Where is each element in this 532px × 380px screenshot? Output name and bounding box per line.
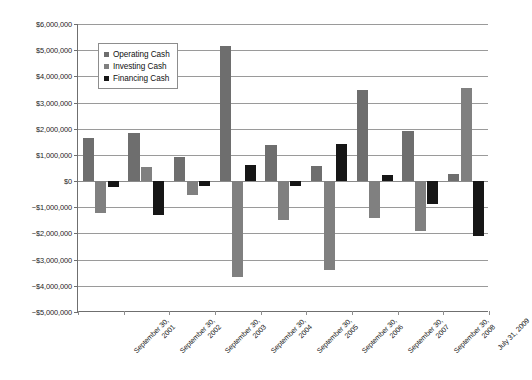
- bar-financing[interactable]: [427, 181, 438, 204]
- bar-investing[interactable]: [278, 181, 289, 220]
- x-tickmark: [124, 311, 125, 315]
- x-tickmark: [398, 311, 399, 315]
- chart-legend: Operating Cash Investing Cash Financing …: [98, 43, 178, 89]
- x-tickmark: [261, 311, 262, 315]
- bar-financing[interactable]: [108, 181, 119, 187]
- bar-investing[interactable]: [95, 181, 106, 213]
- y-axis-tick-label: $1,000,000: [0, 150, 72, 159]
- legend-item-investing: Investing Cash: [104, 60, 170, 72]
- bar-operating[interactable]: [448, 174, 459, 181]
- bar-investing[interactable]: [141, 167, 152, 181]
- x-axis-category-label: September 30,2005: [315, 317, 360, 362]
- bar-investing[interactable]: [415, 181, 426, 231]
- y-axis-tick-label: −$2,000,000: [0, 229, 72, 238]
- bar-operating[interactable]: [402, 131, 413, 181]
- y-axis-tick-label: $3,000,000: [0, 98, 72, 107]
- x-axis-category-label: September 30,2003: [224, 317, 269, 362]
- bar-investing[interactable]: [187, 181, 198, 195]
- x-tickmark: [352, 311, 353, 315]
- x-tickmark: [306, 311, 307, 315]
- legend-item-operating: Operating Cash: [104, 48, 170, 60]
- bar-operating[interactable]: [220, 46, 231, 181]
- legend-swatch-financing-icon: [104, 76, 109, 81]
- bar-group: [261, 24, 307, 311]
- bar-financing[interactable]: [245, 165, 256, 181]
- x-tickmark: [489, 311, 490, 315]
- bar-investing[interactable]: [232, 181, 243, 277]
- x-axis-category-label: September 30,2008: [452, 317, 497, 362]
- legend-label-financing: Financing Cash: [113, 74, 169, 83]
- y-axis-tick-label: $5,000,000: [0, 46, 72, 55]
- bar-group: [443, 24, 489, 311]
- x-axis-category-label: July 31, 2009: [496, 317, 531, 352]
- bar-operating[interactable]: [128, 133, 139, 181]
- bar-group: [215, 24, 261, 311]
- x-tickmark: [215, 311, 216, 315]
- bar-financing[interactable]: [473, 181, 484, 236]
- bar-financing[interactable]: [382, 175, 393, 181]
- bar-financing[interactable]: [153, 181, 164, 215]
- bar-operating[interactable]: [357, 90, 368, 181]
- bar-group: [398, 24, 444, 311]
- legend-swatch-operating-icon: [104, 52, 109, 57]
- y-axis-tick-label: −$4,000,000: [0, 281, 72, 290]
- y-axis-tick-label: $6,000,000: [0, 20, 72, 29]
- bar-operating[interactable]: [311, 166, 322, 181]
- y-axis-tick-label: −$1,000,000: [0, 203, 72, 212]
- x-axis-category-label: September 30,2004: [269, 317, 314, 362]
- x-axis-category-label: September 30,2006: [361, 317, 406, 362]
- legend-swatch-investing-icon: [104, 64, 109, 69]
- x-tickmark: [169, 311, 170, 315]
- x-axis-category-label: September 30,2002: [178, 317, 223, 362]
- y-axis-tick-label: −$3,000,000: [0, 255, 72, 264]
- bar-financing[interactable]: [199, 181, 210, 186]
- y-axis-tick-label: −$5,000,000: [0, 308, 72, 317]
- bar-operating[interactable]: [83, 138, 94, 181]
- bar-investing[interactable]: [369, 181, 380, 218]
- bar-financing[interactable]: [336, 144, 347, 181]
- x-axis-category-label: September 30,2007: [406, 317, 451, 362]
- bar-investing[interactable]: [461, 88, 472, 181]
- legend-item-financing: Financing Cash: [104, 72, 170, 84]
- legend-label-investing: Investing Cash: [113, 62, 166, 71]
- bar-group: [352, 24, 398, 311]
- bar-financing[interactable]: [290, 181, 301, 186]
- y-axis-tick-label: $2,000,000: [0, 124, 72, 133]
- bar-investing[interactable]: [324, 181, 335, 270]
- bar-operating[interactable]: [265, 145, 276, 181]
- y-axis-tick-label: $0: [0, 177, 72, 186]
- y-axis-tick-label: $4,000,000: [0, 72, 72, 81]
- x-tickmark: [78, 311, 79, 315]
- bar-operating[interactable]: [174, 157, 185, 181]
- x-axis-label-line: July 31, 2009: [496, 317, 531, 352]
- x-tickmark: [443, 311, 444, 315]
- bar-group: [306, 24, 352, 311]
- x-axis-category-label: September 30,2001: [132, 317, 177, 362]
- legend-label-operating: Operating Cash: [113, 50, 170, 59]
